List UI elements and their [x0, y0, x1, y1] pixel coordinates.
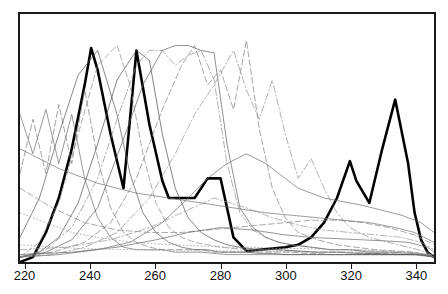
series-line-background-series-2	[20, 90, 434, 257]
series-line-background-series-3	[20, 50, 434, 257]
series-line-background-series-4	[20, 45, 434, 257]
x-tick-mark	[25, 264, 26, 269]
x-tick-mark	[351, 264, 352, 269]
series-line-background-series-1	[20, 109, 434, 257]
x-tick-label: 260	[144, 268, 166, 283]
series-line-background-series-11	[20, 213, 434, 255]
x-tick-mark	[90, 264, 91, 269]
x-tick-label: 240	[79, 268, 101, 283]
x-tick-label: 300	[275, 268, 297, 283]
x-tick-label: 280	[210, 268, 232, 283]
series-line-background-series-5	[20, 50, 434, 257]
x-tick-mark	[221, 264, 222, 269]
x-tick-mark	[286, 264, 287, 269]
x-tick-mark	[155, 264, 156, 269]
series-line-background-series-6	[20, 50, 434, 257]
x-tick-label: 340	[406, 268, 428, 283]
chart-svg	[20, 14, 434, 262]
series-layer	[20, 41, 434, 262]
series-line-background-series-7	[20, 45, 434, 257]
x-tick-label: 320	[340, 268, 362, 283]
plot-area	[18, 12, 436, 264]
chart-root: 220240260280300320340	[0, 0, 448, 294]
x-tick-label: 220	[14, 268, 36, 283]
x-tick-mark	[416, 264, 417, 269]
series-line-highlighted-bold-series	[20, 48, 434, 262]
series-line-background-series-9	[20, 50, 434, 257]
